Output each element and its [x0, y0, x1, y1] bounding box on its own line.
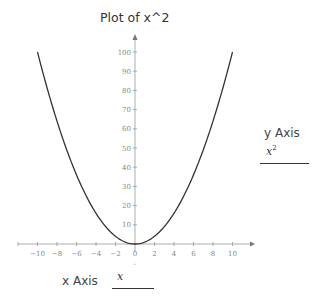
svg-text:100: 100: [118, 49, 131, 57]
y-expr-exponent: 2: [272, 144, 276, 152]
svg-text:−8: −8: [52, 250, 62, 258]
y-axis-label: y Axis: [264, 126, 300, 140]
svg-text:30: 30: [122, 183, 131, 191]
svg-text:90: 90: [122, 68, 131, 76]
x-expression-underline: [112, 288, 154, 289]
svg-text:-: -: [134, 260, 137, 268]
svg-text:0: 0: [133, 250, 137, 258]
axes: [18, 34, 255, 252]
svg-text:−2: −2: [110, 250, 120, 258]
svg-text:10: 10: [122, 221, 131, 229]
svg-text:−4: −4: [91, 250, 102, 258]
svg-text:2: 2: [152, 250, 156, 258]
svg-text:8: 8: [211, 250, 215, 258]
svg-text:70: 70: [122, 106, 131, 114]
svg-text:−6: −6: [71, 250, 82, 258]
svg-text:50: 50: [122, 145, 131, 153]
svg-text:80: 80: [122, 87, 131, 95]
x-axis-label: x Axis: [62, 274, 98, 288]
svg-text:4: 4: [172, 250, 177, 258]
y-expression-input[interactable]: x2: [266, 144, 277, 158]
axis-ticks: −10−8−6−4−20246810102030405060708090100-: [18, 49, 237, 269]
svg-text:10: 10: [228, 250, 237, 258]
svg-text:6: 6: [191, 250, 196, 258]
svg-text:40: 40: [122, 164, 131, 172]
svg-text:−10: −10: [30, 250, 45, 258]
svg-text:60: 60: [122, 125, 131, 133]
svg-text:20: 20: [122, 202, 131, 210]
x-expression-input[interactable]: x: [117, 270, 123, 283]
y-expression-underline: [260, 163, 309, 164]
